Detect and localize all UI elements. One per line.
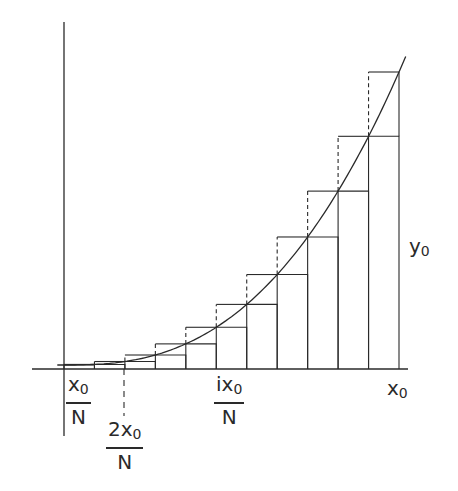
lower-rectangle [247, 304, 277, 369]
lower-rectangle [338, 191, 368, 369]
label-x0-over-n: x0 N [66, 373, 91, 428]
label-y0: y0 [409, 236, 430, 258]
lower-rectangle [216, 327, 246, 369]
label-ix0-over-n: ix0 N [214, 373, 244, 428]
lower-rectangles [64, 136, 399, 369]
lower-rectangle [186, 344, 216, 369]
lower-rectangle [369, 136, 399, 369]
lower-rectangle [155, 355, 185, 369]
riemann-sum-figure: x0 N 2x0 N ix0 N x0 y0 [0, 0, 458, 491]
lower-rectangle [277, 275, 307, 369]
function-curve [57, 57, 405, 366]
upper-rectangle-edges [64, 72, 399, 365]
lower-rectangle [125, 362, 155, 369]
label-x0: x0 [387, 378, 408, 400]
lower-rectangle [308, 237, 338, 369]
lower-rectangle [94, 364, 124, 369]
label-2x0-over-n: 2x0 N [106, 418, 143, 473]
